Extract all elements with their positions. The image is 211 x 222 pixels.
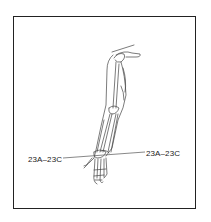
callout-label-left: 23A–23C	[28, 155, 62, 164]
callout-label-right: 23A–23C	[146, 149, 180, 158]
arm-skeleton-illustration	[0, 0, 211, 222]
